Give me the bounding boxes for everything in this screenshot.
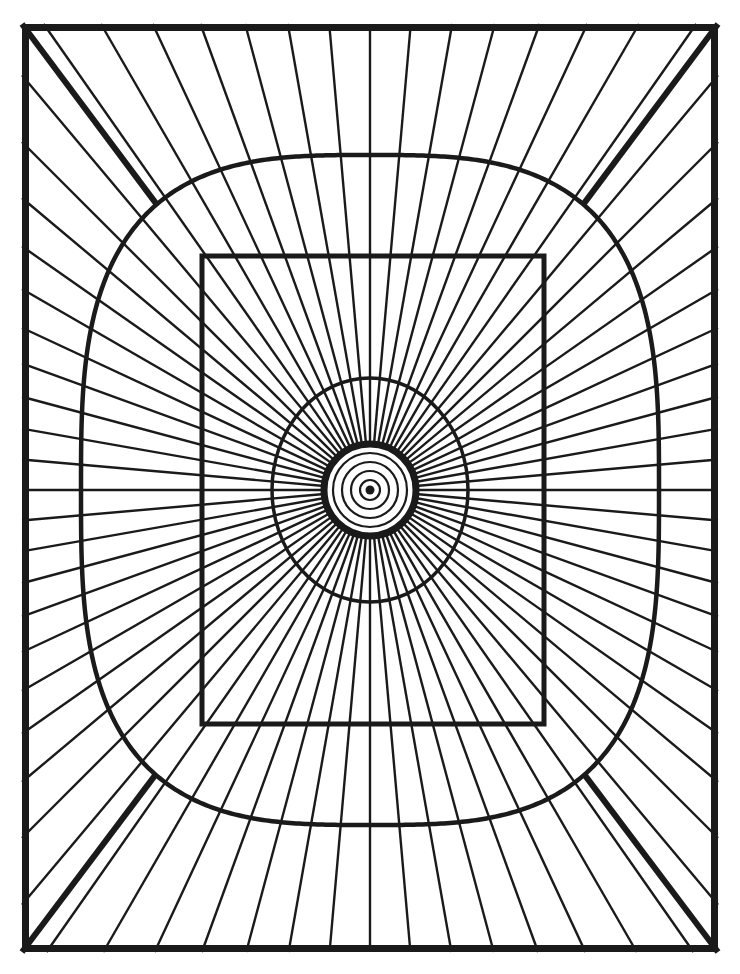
artwork-canvas: [0, 0, 740, 974]
center-dot: [366, 486, 375, 495]
radial-sunburst-svg: [0, 0, 740, 974]
